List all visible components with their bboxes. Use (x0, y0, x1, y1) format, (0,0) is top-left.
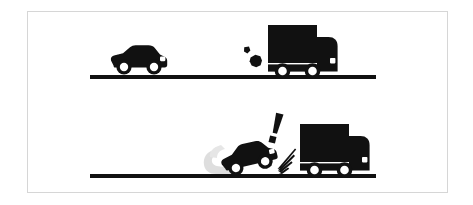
panel-before-impact (90, 25, 376, 79)
road-hazard-illustration (0, 0, 473, 205)
following-car-top (111, 45, 167, 74)
panel-after-impact (90, 113, 376, 179)
debris-piece-small (244, 47, 250, 54)
lead-truck-bottom (300, 124, 370, 178)
debris-piece-large (250, 55, 262, 67)
falling-debris (244, 47, 262, 68)
alert-exclamation-icon (269, 113, 284, 144)
lead-truck-top (268, 25, 338, 79)
impact-lines (278, 149, 297, 175)
illustration-canvas: Truck dropping debris causes following c… (0, 0, 473, 205)
